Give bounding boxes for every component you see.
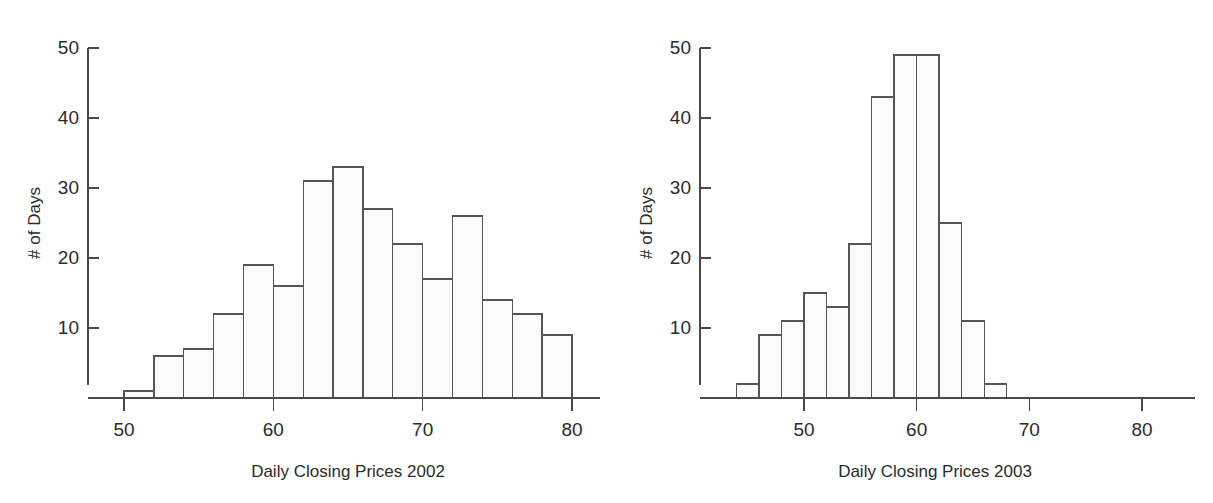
x-axis-ticks: 50607080 [113,398,582,440]
chart-panel-2003: 102030405050607080Daily Closing Prices 2… [620,0,1213,503]
histogram-bar [273,286,303,398]
histogram-2002-plot: 102030405050607080Daily Closing Prices 2… [0,0,620,503]
figure-two-histograms: 102030405050607080Daily Closing Prices 2… [0,0,1213,503]
x-axis-title: Daily Closing Prices 2003 [838,462,1032,481]
histogram-bar [781,321,804,398]
x-tick-label: 80 [1131,419,1152,440]
histogram-bar [184,349,214,398]
bars-group [736,55,1006,398]
x-tick-label: 60 [263,419,284,440]
histogram-bar [154,356,184,398]
histogram-bar [804,293,827,398]
histogram-bar [849,244,872,398]
histogram-bar [333,167,363,398]
y-tick-label: 40 [670,107,691,128]
histogram-bar [482,300,512,398]
histogram-bar [542,335,572,398]
y-tick-label: 50 [58,37,79,58]
histogram-bar [512,314,542,398]
x-axis-title: Daily Closing Prices 2002 [251,462,445,481]
x-tick-label: 50 [113,419,134,440]
y-tick-label: 10 [670,317,691,338]
y-axis-title: # of Days [25,187,44,259]
histogram-bar [917,55,940,398]
histogram-bar [984,384,1007,398]
histogram-bar [736,384,759,398]
y-axis-ticks: 1020304050 [58,37,99,338]
histogram-bar [124,391,154,398]
x-tick-label: 50 [793,419,814,440]
histogram-bar [303,181,333,398]
y-axis-ticks: 1020304050 [670,37,711,338]
histogram-bar [214,314,244,398]
histogram-bar [453,216,483,398]
histogram-bar [827,307,850,398]
y-tick-label: 20 [670,247,691,268]
y-tick-label: 10 [58,317,79,338]
y-tick-label: 50 [670,37,691,58]
x-tick-label: 70 [412,419,433,440]
x-axis-ticks: 50607080 [793,398,1152,440]
y-tick-label: 40 [58,107,79,128]
x-tick-label: 80 [561,419,582,440]
histogram-bar [894,55,917,398]
x-tick-label: 70 [1019,419,1040,440]
y-tick-label: 30 [670,177,691,198]
y-tick-label: 20 [58,247,79,268]
histogram-bar [363,209,393,398]
histogram-bar [243,265,273,398]
y-axis-title: # of Days [637,187,656,259]
bars-group [124,167,572,398]
x-tick-label: 60 [906,419,927,440]
y-tick-label: 30 [58,177,79,198]
histogram-bar [393,244,423,398]
histogram-bar [759,335,782,398]
histogram-bar [939,223,962,398]
histogram-2003-plot: 102030405050607080Daily Closing Prices 2… [620,0,1213,503]
histogram-bar [423,279,453,398]
histogram-bar [872,97,895,398]
histogram-bar [962,321,985,398]
chart-panel-2002: 102030405050607080Daily Closing Prices 2… [0,0,620,503]
